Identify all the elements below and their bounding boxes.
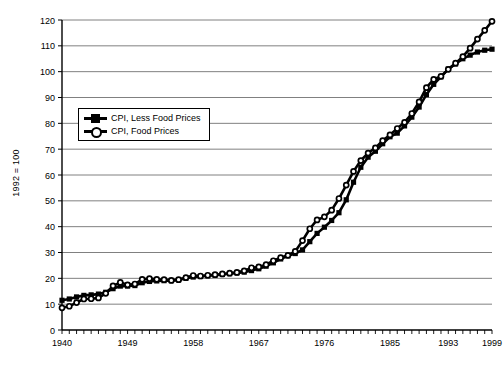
cpi-chart: 0102030405060708090100110120 19401949195… — [0, 0, 504, 366]
svg-text:10: 10 — [45, 300, 55, 310]
svg-text:1999: 1999 — [482, 338, 502, 348]
y-axis-title-wrap: 1992 = 100 — [2, 128, 20, 228]
svg-text:1949: 1949 — [118, 338, 138, 348]
legend-label: CPI, Less Food Prices — [111, 113, 201, 124]
y-tick-labels: 0102030405060708090100110120 — [40, 16, 55, 336]
legend-item-less-food: CPI, Less Food Prices — [84, 112, 204, 125]
legend-label: CPI, Food Prices — [111, 126, 179, 137]
svg-text:70: 70 — [45, 145, 55, 155]
chart-canvas: 0102030405060708090100110120 19401949195… — [0, 0, 504, 366]
x-tick-labels: 19401949195819671976198519931999 — [52, 338, 502, 348]
svg-text:1958: 1958 — [183, 338, 203, 348]
open-circle-marker-icon — [84, 126, 107, 137]
svg-text:60: 60 — [45, 171, 55, 181]
legend-item-food: CPI, Food Prices — [84, 125, 204, 138]
svg-text:0: 0 — [50, 326, 55, 336]
chart-legend: CPI, Less Food Prices CPI, Food Prices — [78, 108, 210, 141]
filled-square-marker-icon — [84, 113, 107, 124]
svg-text:1940: 1940 — [52, 338, 72, 348]
svg-text:1985: 1985 — [380, 338, 400, 348]
svg-text:100: 100 — [40, 67, 55, 77]
y-axis-title: 1992 = 100 — [11, 123, 21, 223]
svg-text:40: 40 — [45, 222, 55, 232]
svg-text:80: 80 — [45, 119, 55, 129]
svg-text:120: 120 — [40, 16, 55, 26]
svg-text:1967: 1967 — [249, 338, 269, 348]
svg-text:90: 90 — [45, 93, 55, 103]
svg-text:1993: 1993 — [438, 338, 458, 348]
svg-text:20: 20 — [45, 274, 55, 284]
svg-text:50: 50 — [45, 196, 55, 206]
series-markers — [59, 19, 494, 310]
series-lines — [62, 21, 492, 307]
svg-text:1976: 1976 — [314, 338, 334, 348]
svg-text:110: 110 — [41, 41, 55, 51]
svg-text:30: 30 — [45, 248, 55, 258]
